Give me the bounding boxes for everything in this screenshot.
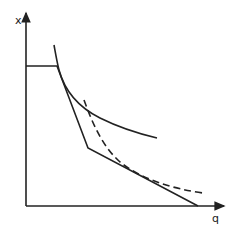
indifference-curve-solid	[54, 45, 157, 138]
indifference-curve-dashed	[84, 100, 203, 193]
x-axis-label: q	[212, 212, 219, 225]
diagram-canvas: x q	[0, 0, 236, 235]
budget-constraint-kinked	[26, 66, 198, 206]
diagram-svg: x q	[0, 0, 236, 235]
y-axis-label: x	[15, 14, 22, 27]
